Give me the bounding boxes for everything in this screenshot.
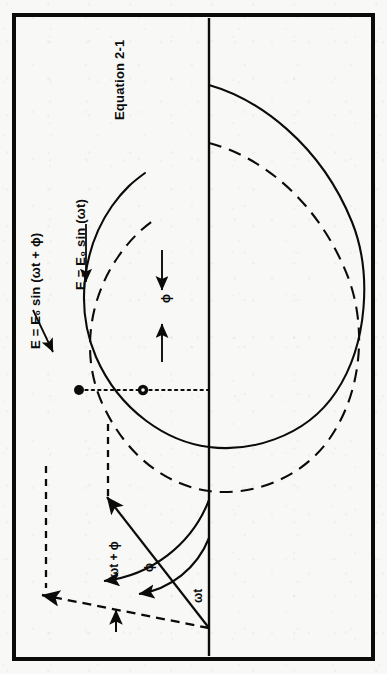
zero-crossing-shifted-dot <box>74 385 84 395</box>
phase-diagram-svg <box>0 0 387 674</box>
curve-reference-sine <box>90 143 359 492</box>
angle-base-label: ωt <box>192 589 204 603</box>
angle-total-label: ωt + ϕ <box>108 541 120 578</box>
angle-phase-label: ϕ <box>143 563 155 572</box>
phase-gap-label: ϕ <box>160 294 172 303</box>
curve-shifted-sine <box>84 85 364 448</box>
figure-page: Equation 2-1 E = E₀ sin (ωt + ϕ) E = E₀ … <box>0 0 387 674</box>
zero-crossing-reference-dot-core <box>141 388 145 392</box>
curve-reference-equation-label: E = E₀ sin (ωt) <box>74 199 87 290</box>
curve-shifted-equation-label: E = E₀ sin (ωt + ϕ) <box>29 233 42 349</box>
equation-tag-label: Equation 2-1 <box>113 40 126 120</box>
